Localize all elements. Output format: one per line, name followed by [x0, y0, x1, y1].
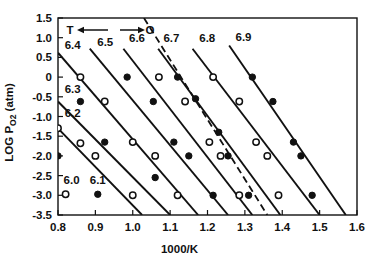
y-tick-label: -0.5: [32, 91, 52, 103]
annotation-left-label: T: [66, 24, 73, 36]
series-line-dashed-boundary: [144, 18, 267, 215]
data-point-open: [264, 153, 270, 159]
data-point-filled: [186, 153, 192, 159]
y-tick-label: -3.0: [32, 189, 52, 201]
series-line-6.6: [123, 49, 252, 215]
x-tick-label: 1.2: [200, 221, 216, 233]
data-point-open: [206, 139, 212, 145]
series-label-6.6: 6.6: [129, 32, 145, 44]
series-label-6.9: 6.9: [236, 31, 252, 43]
y-tick-label: 0: [46, 71, 52, 83]
x-tick-label: 1.5: [312, 221, 329, 233]
data-point-filled: [150, 98, 156, 104]
data-point-open: [130, 139, 136, 145]
data-point-open: [102, 98, 108, 104]
y-tick-label: -1.0: [32, 111, 52, 123]
legend: 6.06.1: [62, 174, 106, 197]
x-tick-label: 0.9: [87, 221, 103, 233]
chart-canvas: 0.80.91.01.11.21.31.41.51.61.51.00.50-0.…: [0, 0, 377, 260]
series-label-6.5: 6.5: [97, 36, 114, 48]
data-point-open: [77, 74, 83, 80]
data-point-filled: [55, 153, 61, 159]
x-tick-label: 1.6: [349, 221, 365, 233]
data-point-open: [275, 192, 281, 198]
data-point-open: [236, 192, 242, 198]
series-label-6.8: 6.8: [199, 32, 216, 44]
data-point-filled: [124, 74, 130, 80]
annotation-right-label: O: [146, 24, 155, 36]
data-point-open: [156, 74, 162, 80]
figure-container: 0.80.91.01.11.21.31.41.51.61.51.00.50-0.…: [0, 0, 377, 260]
data-point-open: [182, 98, 188, 104]
data-point-open: [152, 153, 158, 159]
data-point-filled: [309, 192, 315, 198]
y-tick-label: 1.0: [36, 32, 52, 44]
legend-filled-circle-marker-icon: [95, 191, 101, 197]
data-point-open: [55, 125, 61, 131]
x-tick-label: 1.0: [125, 221, 141, 233]
data-point-filled: [171, 139, 177, 145]
arrow-left-head-icon: [77, 27, 84, 33]
data-point-open: [174, 192, 180, 198]
data-point-open: [253, 139, 259, 145]
x-tick-label: 0.8: [50, 221, 67, 233]
series-label-6.3: 6.3: [65, 83, 81, 95]
legend-label-open: 6.0: [64, 174, 80, 186]
data-point-open: [236, 98, 242, 104]
data-point-open: [92, 153, 98, 159]
x-tick-label: 1.1: [162, 221, 179, 233]
series-label-6.7: 6.7: [163, 32, 179, 44]
axis-ticks: 0.80.91.01.11.21.31.41.51.61.51.00.50-0.…: [32, 12, 365, 233]
data-point-filled: [77, 98, 83, 104]
y-tick-label: -2.5: [32, 170, 52, 182]
data-point-filled: [245, 192, 251, 198]
data-point-filled: [152, 174, 158, 180]
legend-label-filled: 6.1: [90, 174, 107, 186]
data-point-filled: [249, 74, 255, 80]
data-point-open: [210, 74, 216, 80]
data-point-open: [217, 153, 223, 159]
x-axis-title: 1000/K: [161, 243, 199, 255]
data-point-filled: [102, 139, 108, 145]
y-tick-label: 0.5: [36, 51, 53, 63]
series-line-6.9: [229, 46, 346, 215]
x-tick-label: 1.3: [237, 221, 253, 233]
data-point-filled: [290, 139, 296, 145]
data-point-filled: [298, 153, 304, 159]
y-tick-label: 1.5: [36, 12, 53, 24]
y-tick-label: -2.0: [32, 150, 52, 162]
series-label-6.2: 6.2: [65, 107, 81, 119]
data-point-filled: [270, 98, 276, 104]
y-axis-title: LOG PO2 (atm): [3, 83, 18, 162]
data-point-open: [77, 140, 83, 146]
data-point-open: [130, 192, 136, 198]
x-tick-label: 1.4: [274, 221, 291, 233]
series-label-6.4: 6.4: [65, 39, 82, 51]
data-point-filled: [210, 192, 216, 198]
y-tick-label: -1.5: [32, 130, 52, 142]
y-tick-label: -3.5: [32, 209, 52, 221]
legend-open-circle-marker-icon: [62, 191, 68, 197]
